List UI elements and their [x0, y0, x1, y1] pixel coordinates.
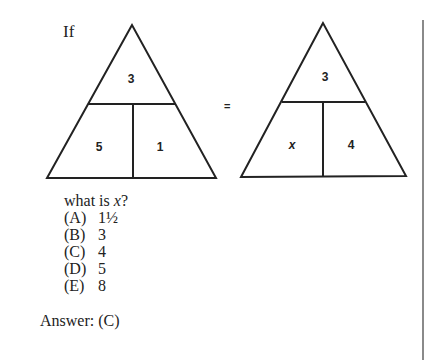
right-top-value: 3	[322, 70, 329, 84]
triangle-figures: 3 5 1 3 x 4	[0, 0, 437, 200]
answer-text: Answer: (C)	[40, 312, 120, 330]
option-e: (E)8	[64, 277, 128, 294]
equals-sign: =	[224, 100, 230, 112]
option-a: (A)1½	[64, 209, 128, 226]
question-block: what is x? (A)1½ (B)3 (C)4 (D)5 (E)8	[64, 192, 128, 294]
option-c: (C)4	[64, 243, 128, 260]
right-bottom-right-value: 4	[348, 138, 355, 152]
left-triangle	[47, 25, 216, 178]
right-bottom-left-value: x	[288, 138, 297, 152]
right-triangle	[241, 23, 406, 177]
question-text: what is x?	[64, 192, 128, 209]
left-bottom-left-value: 5	[96, 140, 103, 154]
left-top-value: 3	[128, 72, 135, 86]
option-b: (B)3	[64, 226, 128, 243]
option-d: (D)5	[64, 260, 128, 277]
page-margin-rule	[422, 20, 424, 360]
left-bottom-right-value: 1	[157, 140, 164, 154]
